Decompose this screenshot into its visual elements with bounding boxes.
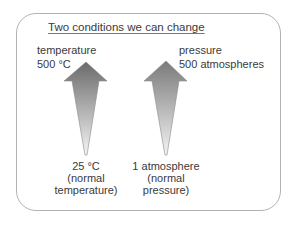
pressure-low-note-2: pressure): [126, 184, 206, 197]
pressure-arrow-icon: [144, 61, 187, 155]
temperature-low-note-2: temperature): [50, 184, 122, 197]
temperature-arrow-icon: [64, 62, 107, 155]
